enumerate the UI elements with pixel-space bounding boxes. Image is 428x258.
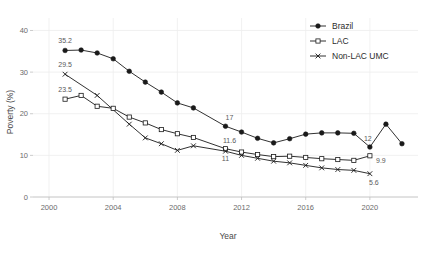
data-point-lac bbox=[288, 154, 292, 158]
data-point-brazil bbox=[287, 136, 292, 141]
data-point-brazil bbox=[239, 130, 244, 135]
legend-marker-filled-circle bbox=[316, 24, 321, 29]
data-point-lac bbox=[368, 154, 372, 158]
chart-canvas: 010203040 200020042008201220162020 35.22… bbox=[0, 0, 428, 258]
data-point-brazil bbox=[352, 131, 357, 136]
y-tick-label: 30 bbox=[20, 68, 28, 77]
data-point-non-lac-umc bbox=[159, 141, 164, 146]
point-value-label: 23.5 bbox=[58, 86, 72, 93]
point-value-label: 5.6 bbox=[369, 179, 379, 186]
data-point-lac bbox=[63, 97, 67, 101]
data-point-brazil bbox=[95, 51, 100, 56]
x-tick-label: 2004 bbox=[105, 203, 122, 212]
point-value-label: 17 bbox=[226, 114, 234, 121]
point-value-label: 11 bbox=[222, 155, 229, 162]
legend-label: Brazil bbox=[332, 21, 353, 31]
x-tick-label: 2008 bbox=[169, 203, 186, 212]
point-value-label: 35.2 bbox=[58, 37, 72, 44]
data-point-brazil bbox=[79, 48, 84, 53]
data-point-brazil bbox=[175, 101, 180, 106]
data-point-brazil bbox=[319, 131, 324, 136]
data-point-brazil bbox=[400, 141, 405, 146]
point-value-label: 29.5 bbox=[58, 61, 72, 68]
point-value-label: 9.9 bbox=[376, 157, 386, 164]
data-point-brazil bbox=[303, 132, 308, 137]
legend: BrazilLACNon-LAC UMC bbox=[310, 21, 389, 61]
data-point-lac bbox=[272, 155, 276, 159]
y-tick-labels: 010203040 bbox=[20, 26, 33, 202]
data-point-brazil bbox=[335, 131, 340, 136]
data-point-lac bbox=[320, 157, 324, 161]
y-tick-label: 10 bbox=[20, 151, 28, 160]
data-point-non-lac-umc bbox=[63, 72, 68, 77]
x-axis-title: Year bbox=[219, 231, 236, 241]
data-point-brazil bbox=[271, 141, 276, 146]
data-point-brazil bbox=[223, 124, 228, 129]
poverty-line-chart: 010203040 200020042008201220162020 35.22… bbox=[0, 0, 428, 258]
legend-label: LAC bbox=[332, 36, 349, 46]
legend-label: Non-LAC UMC bbox=[332, 51, 389, 61]
data-point-brazil bbox=[143, 80, 148, 85]
data-point-lac bbox=[191, 135, 195, 139]
data-point-lac bbox=[159, 127, 163, 131]
data-point-lac bbox=[79, 93, 83, 97]
data-point-lac bbox=[336, 157, 340, 161]
data-point-lac bbox=[255, 152, 259, 156]
data-point-lac bbox=[95, 104, 99, 108]
data-point-brazil bbox=[368, 145, 373, 150]
data-point-lac bbox=[352, 158, 356, 162]
data-point-brazil bbox=[63, 48, 68, 53]
point-value-label: 12 bbox=[364, 135, 372, 142]
series-markers bbox=[63, 48, 405, 176]
x-tick-label: 2012 bbox=[233, 203, 250, 212]
legend-item-non-lac-umc[interactable]: Non-LAC UMC bbox=[310, 51, 389, 61]
y-axis-title: Poverty (%) bbox=[5, 90, 15, 135]
data-point-lac bbox=[175, 132, 179, 136]
legend-marker-open-square bbox=[316, 39, 320, 43]
legend-item-brazil[interactable]: Brazil bbox=[310, 21, 353, 31]
gridlines bbox=[33, 18, 418, 197]
y-tick-label: 40 bbox=[20, 26, 28, 35]
x-tick-labels: 200020042008201220162020 bbox=[41, 197, 379, 212]
data-point-brazil bbox=[255, 136, 260, 141]
legend-item-lac[interactable]: LAC bbox=[310, 36, 349, 46]
data-point-non-lac-umc bbox=[95, 93, 100, 98]
data-point-brazil bbox=[159, 90, 164, 95]
data-point-brazil bbox=[111, 56, 116, 61]
data-point-non-lac-umc bbox=[127, 122, 132, 127]
data-point-lac bbox=[143, 121, 147, 125]
data-point-brazil bbox=[127, 69, 132, 74]
y-tick-label: 20 bbox=[20, 109, 28, 118]
x-tick-label: 2020 bbox=[362, 203, 379, 212]
data-point-lac bbox=[304, 155, 308, 159]
x-tick-label: 2016 bbox=[297, 203, 314, 212]
data-point-non-lac-umc bbox=[143, 135, 148, 140]
data-point-lac bbox=[111, 106, 115, 110]
data-point-lac bbox=[127, 115, 131, 119]
y-tick-label: 0 bbox=[24, 193, 28, 202]
data-point-brazil bbox=[384, 122, 389, 127]
data-point-brazil bbox=[191, 106, 196, 111]
x-tick-label: 2000 bbox=[41, 203, 58, 212]
series-line-lac bbox=[65, 95, 370, 160]
point-value-label: 11.6 bbox=[223, 137, 236, 144]
